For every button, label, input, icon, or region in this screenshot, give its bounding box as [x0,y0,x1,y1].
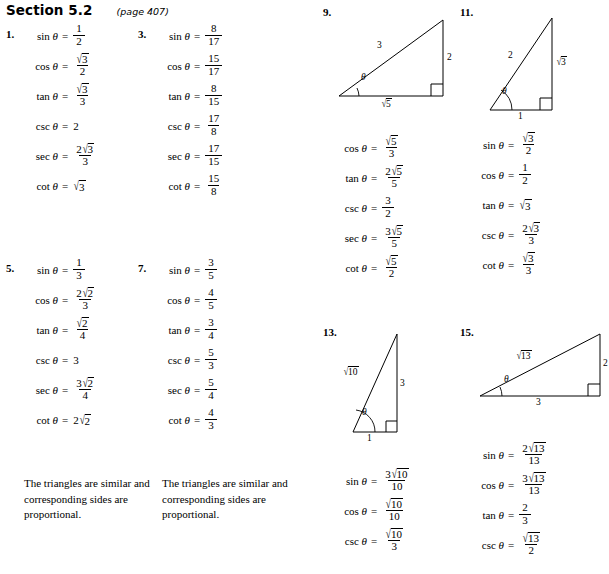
fraction-denominator: 5 [388,177,400,189]
fraction: √33 [73,83,91,108]
identity-function-label: cot θ [333,262,367,274]
theta-symbol: θ [185,180,190,192]
radical-expression: 3√5 [385,225,403,237]
radical-expression: 3√2 [76,377,94,389]
identity-function-label: cos θ [156,294,190,306]
radicand: 2 [85,414,92,427]
equals-sign: = [194,414,200,426]
fraction-numerator: 8 [208,83,220,94]
identity-function-label: tan θ [24,90,58,102]
fraction-denominator: 15 [205,155,222,167]
radicand: 3 [82,83,89,96]
fraction-denominator: 3 [525,234,537,246]
identity-function-label: cos θ [24,294,58,306]
fraction-denominator: 3 [519,514,531,526]
fraction-denominator: 3 [386,147,398,159]
identity-row: cos θ=√32 [24,51,97,81]
triangle-15-svg [464,328,609,408]
fraction-numerator: 5 [205,347,217,358]
fraction: 2√33 [519,222,543,247]
identity-value: √52 [382,256,400,281]
identity-value: 13 [73,258,85,281]
radical-expression: 2√3 [76,143,94,155]
fraction: 35 [205,257,217,280]
theta-symbol: θ [185,414,190,426]
identity-function-label: sin θ [333,475,367,487]
equals-sign: = [371,232,377,244]
theta-symbol: θ [362,172,367,184]
identity-row: cot θ=√52 [333,253,406,283]
equals-sign: = [62,354,68,366]
page-header: Section 5.2 (page 407) [6,2,169,18]
triangle-11-svg [480,12,590,117]
identity-function-label: sin θ [24,264,58,276]
fraction-denominator: 3 [523,264,535,276]
fraction: 815 [205,83,222,106]
fraction: √132 [519,532,543,557]
theta-symbol: θ [499,199,504,211]
fraction-denominator: 5 [205,299,217,311]
radical-expression: √13 [516,351,532,361]
identity-row: tan θ=34 [156,315,217,345]
right-angle-marker-15 [588,384,600,396]
radicand: 3 [82,53,89,66]
theta-symbol: θ [362,262,367,274]
fraction-denominator: 2 [382,207,394,219]
problem-7-identities: sin θ=35cos θ=45tan θ=34csc θ=53sec θ=54… [156,255,217,435]
theta-symbol: θ [362,535,367,547]
identity-row: cos θ=3√1313 [470,470,549,500]
fraction-numerator: 2√2 [73,287,97,300]
identity-row: csc θ=√103 [333,526,412,556]
equals-sign: = [371,475,377,487]
problem-15-identities: sin θ=2√1313cos θ=3√1313tan θ=23csc θ=√1… [470,440,549,560]
identity-row: cot θ=158 [156,171,222,201]
fraction-denominator: 2 [386,267,398,279]
identity-value: 3√1313 [519,473,548,498]
radicand: 10 [391,498,403,511]
radical-expression: 2√13 [522,442,545,454]
radical-expression: √10 [385,528,403,540]
equals-sign: = [371,172,377,184]
equals-sign: = [371,142,377,154]
radical-expression: √13 [522,532,540,544]
right-angle-marker-11 [540,98,552,110]
sqrt-icon: √3 [82,143,94,156]
equals-sign: = [62,60,68,72]
fraction: 3√24 [73,377,97,402]
fraction-denominator: 2 [73,35,85,47]
identity-function-label: sin θ [156,30,190,42]
equals-sign: = [508,169,514,181]
fraction-numerator: √10 [382,528,406,541]
radicand: 10 [397,468,409,481]
fraction: 54 [205,377,217,400]
fraction-numerator: 15 [205,53,222,64]
fraction: √103 [382,528,406,553]
radical-expression: 2√5 [385,165,403,177]
sqrt-icon: √10 [391,468,409,481]
theta-symbol: θ [185,120,190,132]
sqrt-icon: √10 [385,528,403,541]
equals-sign: = [62,384,68,396]
equals-sign: = [62,150,68,162]
identity-function-label: sin θ [156,264,190,276]
radicand: 3 [528,252,535,265]
identity-row: cos θ=1517 [156,51,222,81]
sqrt-icon: √2 [82,377,94,390]
fraction-denominator: 4 [205,389,217,401]
fraction: 13 [73,257,85,280]
identity-function-label: cos θ [24,60,58,72]
identity-value: √132 [519,533,543,558]
sqrt-icon: √3 [76,53,88,66]
theta-symbol: θ [185,30,190,42]
theta-symbol: θ [362,505,367,517]
radicand: 13 [534,472,546,485]
fraction-numerator: √3 [519,132,537,145]
sqrt-icon: √13 [528,442,546,455]
equals-sign: = [194,264,200,276]
radical-expression: √3 [522,132,534,144]
radical-expression: √3 [519,199,531,211]
equals-sign: = [508,539,514,551]
identity-function-label: sec θ [156,150,190,162]
radical-expression: √2 [76,317,88,329]
radicand: 5 [391,255,398,268]
